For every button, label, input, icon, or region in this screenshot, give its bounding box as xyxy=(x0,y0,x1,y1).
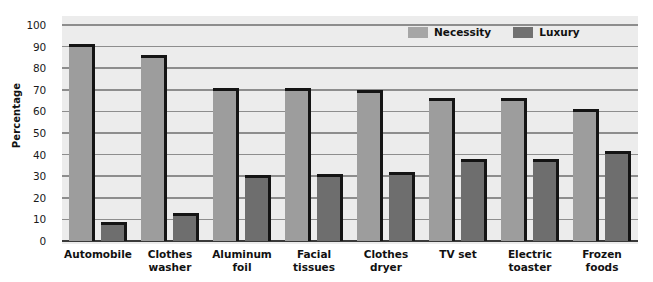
legend-label: Luxury xyxy=(539,26,579,38)
chart-legend: NecessityLuxury xyxy=(408,26,580,38)
bar-luxury xyxy=(317,174,343,241)
legend-item-necessity: Necessity xyxy=(408,26,491,38)
necessity-swatch xyxy=(408,27,428,38)
bar-necessity xyxy=(213,88,239,241)
bar-luxury xyxy=(605,151,631,241)
bar-group xyxy=(278,16,350,244)
y-tick-label: 90 xyxy=(18,41,46,53)
y-tick-label: 20 xyxy=(18,192,46,204)
x-axis-label: TV set xyxy=(439,248,476,261)
bar-group xyxy=(350,16,422,244)
y-tick-label: 40 xyxy=(18,149,46,161)
y-tick-label: 60 xyxy=(18,105,46,117)
luxury-swatch xyxy=(513,27,533,38)
bar-luxury xyxy=(173,213,199,241)
bar-necessity xyxy=(285,88,311,241)
y-axis-ticks: 0102030405060708090100 xyxy=(18,0,46,282)
bar-chart: Percentage 0102030405060708090100 Necess… xyxy=(0,0,653,282)
bar-luxury xyxy=(461,159,487,241)
x-axis-label: Automobile xyxy=(64,248,132,261)
y-tick-label: 70 xyxy=(18,84,46,96)
bar-necessity xyxy=(69,44,95,241)
y-tick-label: 100 xyxy=(18,19,46,31)
bar-necessity xyxy=(573,109,599,241)
plot-area xyxy=(62,16,638,244)
bar-necessity xyxy=(141,55,167,241)
bar-group xyxy=(62,16,134,244)
y-tick-label: 80 xyxy=(18,62,46,74)
y-tick-label: 50 xyxy=(18,127,46,139)
x-axis-label: Electric toaster xyxy=(508,248,552,274)
bar-luxury xyxy=(245,175,271,241)
x-axis-label: Clothes washer xyxy=(148,248,192,274)
bar-group xyxy=(206,16,278,244)
bar-group xyxy=(566,16,638,244)
bar-luxury xyxy=(101,222,127,241)
x-axis-label: Clothes dryer xyxy=(364,248,408,274)
x-axis-labels: AutomobileClothes washerAluminum foilFac… xyxy=(62,248,638,282)
x-axis-label: Aluminum foil xyxy=(212,248,272,274)
bar-necessity xyxy=(357,90,383,241)
bar-group xyxy=(134,16,206,244)
bar-luxury xyxy=(389,172,415,241)
bar-necessity xyxy=(501,98,527,241)
bar-group xyxy=(422,16,494,244)
y-tick-label: 10 xyxy=(18,213,46,225)
bar-necessity xyxy=(429,98,455,241)
y-tick-label: 0 xyxy=(18,235,46,247)
legend-item-luxury: Luxury xyxy=(513,26,579,38)
x-axis-label: Facial tissues xyxy=(293,248,335,274)
y-tick-label: 30 xyxy=(18,170,46,182)
bar-luxury xyxy=(533,159,559,241)
legend-label: Necessity xyxy=(434,26,491,38)
x-axis-label: Frozen foods xyxy=(582,248,622,274)
bar-group xyxy=(494,16,566,244)
